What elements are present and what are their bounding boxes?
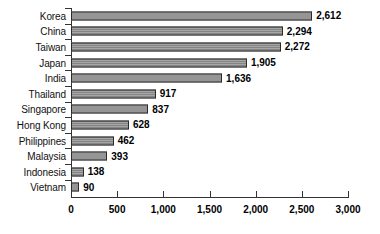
bar bbox=[71, 89, 156, 98]
bar-track: 628 bbox=[71, 120, 348, 129]
category-label: Taiwan bbox=[0, 41, 66, 52]
bar bbox=[71, 152, 107, 161]
category-label: Hong Kong bbox=[0, 119, 66, 130]
category-label: Philippines bbox=[0, 135, 66, 146]
bar-rows: Korea2,612China2,294Taiwan2,272Japan1,90… bbox=[0, 8, 380, 197]
bar-track: 90 bbox=[71, 183, 348, 192]
y-axis-tick bbox=[65, 180, 71, 181]
bar bbox=[71, 11, 312, 20]
bar-value-label: 837 bbox=[152, 104, 169, 115]
category-label: Japan bbox=[0, 57, 66, 68]
bar-row: Thailand917 bbox=[0, 86, 380, 102]
category-label: Indonesia bbox=[0, 166, 66, 177]
bar-row: Indonesia138 bbox=[0, 164, 380, 180]
bar-value-label: 2,612 bbox=[316, 10, 341, 21]
bar-row: China2,294 bbox=[0, 24, 380, 40]
bar-row: Taiwan2,272 bbox=[0, 39, 380, 55]
bar bbox=[71, 136, 114, 145]
y-axis-tick bbox=[65, 39, 71, 40]
category-label: Singapore bbox=[0, 104, 66, 115]
y-axis-tick bbox=[65, 86, 71, 87]
category-label: Vietnam bbox=[0, 182, 66, 193]
x-axis-line bbox=[71, 197, 349, 198]
bar-value-label: 393 bbox=[111, 151, 128, 162]
bar bbox=[71, 27, 283, 36]
x-axis-tick-label: 2,000 bbox=[243, 204, 268, 216]
category-label: India bbox=[0, 73, 66, 84]
bar bbox=[71, 105, 148, 114]
bar-value-label: 138 bbox=[88, 166, 105, 177]
x-axis-tick-label: 1,500 bbox=[197, 204, 222, 216]
bar-value-label: 90 bbox=[83, 182, 94, 193]
bar-row: Philippines462 bbox=[0, 133, 380, 149]
category-label: Korea bbox=[0, 10, 66, 21]
bar-value-label: 2,272 bbox=[285, 41, 310, 52]
bar-track: 2,294 bbox=[71, 27, 348, 36]
y-axis-tick bbox=[65, 148, 71, 149]
bar bbox=[71, 183, 79, 192]
bar-row: Korea2,612 bbox=[0, 8, 380, 24]
y-axis-tick bbox=[65, 133, 71, 134]
bar bbox=[71, 120, 129, 129]
y-axis-tick bbox=[65, 70, 71, 71]
y-axis-tick bbox=[65, 24, 71, 25]
y-axis-tick bbox=[65, 55, 71, 56]
bar-chart: Korea2,612China2,294Taiwan2,272Japan1,90… bbox=[0, 0, 380, 234]
bar-row: India1,636 bbox=[0, 70, 380, 86]
bar-track: 393 bbox=[71, 152, 348, 161]
bar-value-label: 2,294 bbox=[287, 26, 312, 37]
bar-track: 837 bbox=[71, 105, 348, 114]
y-axis-tick bbox=[65, 164, 71, 165]
bar bbox=[71, 167, 84, 176]
category-label: Malaysia bbox=[0, 151, 66, 162]
bar-row: Singapore837 bbox=[0, 102, 380, 118]
bar-row: Hong Kong628 bbox=[0, 117, 380, 133]
y-axis-tick bbox=[65, 8, 71, 9]
x-axis-tick-label: 0 bbox=[68, 204, 74, 216]
y-axis-tick bbox=[65, 117, 71, 118]
bar-track: 1,905 bbox=[71, 58, 348, 67]
bar-row: Malaysia393 bbox=[0, 148, 380, 164]
category-label: Thailand bbox=[0, 88, 66, 99]
x-axis-tick-label: 1,000 bbox=[151, 204, 176, 216]
bar-track: 2,612 bbox=[71, 11, 348, 20]
bar-value-label: 917 bbox=[160, 88, 177, 99]
category-label: China bbox=[0, 26, 66, 37]
x-axis-tick-label: 2,500 bbox=[289, 204, 314, 216]
y-axis-tick bbox=[65, 102, 71, 103]
bar-value-label: 1,636 bbox=[226, 73, 251, 84]
bar-track: 462 bbox=[71, 136, 348, 145]
bar-track: 138 bbox=[71, 167, 348, 176]
bar-value-label: 1,905 bbox=[251, 57, 276, 68]
bar-row: Vietnam90 bbox=[0, 180, 380, 196]
bar-row: Japan1,905 bbox=[0, 55, 380, 71]
bar-track: 1,636 bbox=[71, 74, 348, 83]
x-axis-tick-label: 3,000 bbox=[335, 204, 360, 216]
bar bbox=[71, 58, 247, 67]
bar-track: 2,272 bbox=[71, 42, 348, 51]
bar-value-label: 462 bbox=[118, 135, 135, 146]
bar-track: 917 bbox=[71, 89, 348, 98]
bar bbox=[71, 74, 222, 83]
bar bbox=[71, 42, 281, 51]
bar-value-label: 628 bbox=[133, 119, 150, 130]
x-axis-tick-label: 500 bbox=[109, 204, 126, 216]
